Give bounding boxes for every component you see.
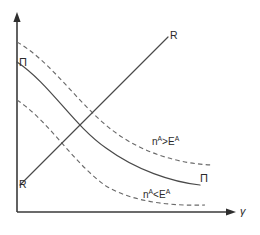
condition-upper-operator: >E: [162, 136, 175, 147]
profit-reaction-diagram: Π Π R R nA>EA nA<EA γ: [0, 0, 260, 235]
reaction-line-bottom-label: R: [19, 179, 27, 190]
curve-upper-dashed: [17, 42, 212, 165]
condition-upper-superscript-2: A: [175, 135, 180, 142]
plot-area: [0, 0, 260, 235]
curve-solid-profit: [17, 62, 200, 185]
x-axis-label: γ: [240, 206, 246, 217]
curve-lower-dashed: [17, 100, 205, 205]
condition-lower-superscript-2: A: [166, 188, 171, 195]
reaction-line-rr: [20, 37, 168, 185]
y-intercept-pi-label: Π: [19, 57, 27, 68]
y-axis-arrow-icon: [13, 12, 20, 22]
condition-lower-operator: <E: [153, 189, 166, 200]
reaction-line-top-label: R: [170, 30, 178, 41]
x-axis-arrow-icon: [226, 208, 236, 215]
profit-curve-pi-label: Π: [200, 173, 208, 184]
condition-lower-label: nA<EA: [143, 190, 170, 200]
condition-upper-label: nA>EA: [152, 137, 179, 147]
